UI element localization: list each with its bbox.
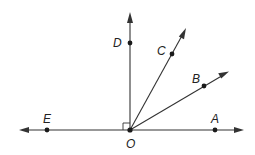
point-C: [170, 52, 175, 57]
arrowhead-left-icon: [19, 127, 29, 133]
label-D: D: [113, 36, 122, 50]
point-A: [213, 128, 218, 133]
point-E: [45, 128, 50, 133]
geometry-diagram: A B C D E O: [0, 0, 255, 155]
point-D: [128, 41, 133, 46]
label-C: C: [157, 44, 166, 58]
point-B: [202, 84, 207, 89]
point-O: [127, 127, 132, 132]
arrowhead-up-icon: [127, 12, 133, 23]
label-A: A: [210, 112, 219, 126]
arrowhead-right-icon: [234, 127, 244, 133]
label-E: E: [43, 112, 52, 126]
arrowhead-c-icon: [179, 28, 186, 39]
label-O: O: [126, 137, 135, 151]
label-B: B: [192, 72, 200, 86]
